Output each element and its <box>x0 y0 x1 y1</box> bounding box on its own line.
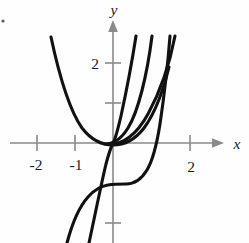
x-axis-label: x <box>233 135 241 152</box>
curve-x-squared <box>51 37 169 145</box>
power-function-graph-figure: -2 -1 2 2 x y <box>0 0 249 243</box>
labels-group: -2 -1 2 2 x y <box>30 1 241 175</box>
y-tick-label-2: 2 <box>91 55 99 72</box>
x-axis-arrow-icon <box>212 138 224 148</box>
y-axis-arrow-icon <box>108 20 118 32</box>
x-tick-label-neg1: -1 <box>70 156 83 173</box>
x-tick-label-neg2: -2 <box>30 156 43 173</box>
x-tick-label-2: 2 <box>187 158 195 175</box>
y-axis-label: y <box>109 1 118 18</box>
scan-speck-artifact <box>1 19 4 22</box>
graph-canvas: -2 -1 2 2 x y <box>0 0 249 243</box>
